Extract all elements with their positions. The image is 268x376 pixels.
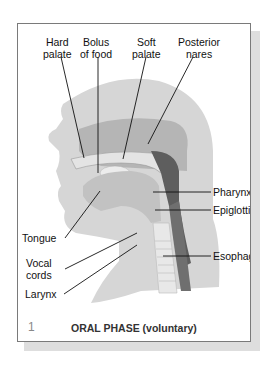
label-pharynx: Pharynx (213, 186, 251, 198)
label-hard-palate: Hardpalate (43, 36, 72, 60)
label-vocal-cords: Vocalcords (26, 257, 52, 281)
label-tongue: Tongue (22, 232, 56, 244)
label-posterior-nares: Posteriornares (178, 36, 220, 60)
figure-frame: Hardpalate Bolusof food Softpalate Poste… (17, 23, 251, 342)
label-larynx: Larynx (25, 288, 57, 300)
label-esophagus: Esophagus (213, 250, 251, 262)
figure-number: 1 (28, 320, 35, 334)
label-soft-palate: Softpalate (132, 36, 161, 60)
label-epiglottis: Epiglottis (213, 204, 251, 216)
label-bolus-of-food: Bolusof food (80, 36, 112, 60)
figure-caption: ORAL PHASE (voluntary) (71, 322, 197, 334)
